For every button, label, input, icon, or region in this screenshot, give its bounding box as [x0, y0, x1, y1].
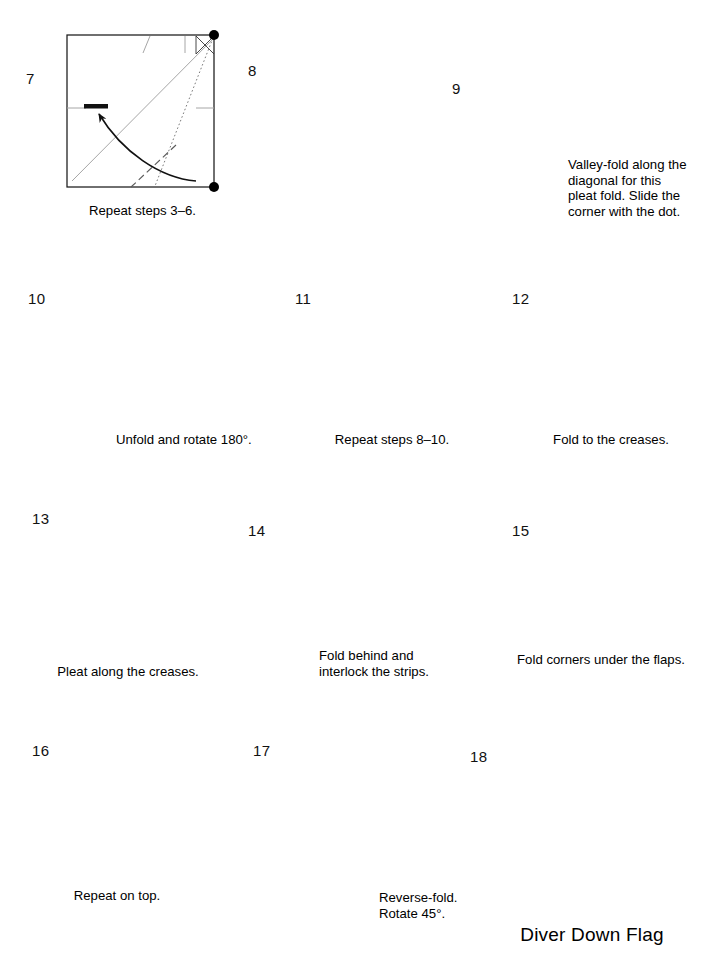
step-number-18: 18 — [470, 748, 487, 765]
step-7-figure — [67, 30, 219, 192]
step-caption-14: Fold behind and interlock the strips. — [319, 648, 459, 679]
step-number-15: 15 — [512, 522, 529, 539]
step-number-7: 7 — [26, 70, 35, 87]
step-number-16: 16 — [32, 742, 49, 759]
model-title: Diver Down Flag — [487, 924, 697, 946]
step-caption-10: Unfold and rotate 180°. — [116, 432, 306, 448]
step-caption-13: Pleat along the creases. — [28, 664, 228, 680]
step-caption-7: Repeat steps 3–6. — [60, 203, 225, 219]
step-number-9: 9 — [452, 80, 461, 97]
step-caption-11: Repeat steps 8–10. — [312, 432, 472, 448]
step-caption-15: Fold corners under the flaps. — [496, 652, 706, 668]
step-number-17: 17 — [253, 742, 270, 759]
step-caption-9: Valley-fold along the diagonal for this … — [568, 157, 714, 219]
step-number-12: 12 — [512, 290, 529, 307]
diagram-canvas: .edge { fill:none; stroke:#1a1a1a; strok… — [0, 0, 714, 975]
step-caption-17: Reverse-fold. Rotate 45°. — [379, 890, 499, 921]
step-number-11: 11 — [295, 290, 311, 307]
step-number-10: 10 — [28, 290, 45, 307]
origami-diagram-page: .edge { fill:none; stroke:#1a1a1a; strok… — [0, 0, 714, 975]
step-number-13: 13 — [32, 510, 49, 527]
step-number-8: 8 — [248, 62, 257, 79]
step-caption-16: Repeat on top. — [42, 888, 192, 904]
step-number-14: 14 — [248, 522, 265, 539]
step-caption-12: Fold to the creases. — [531, 432, 691, 448]
